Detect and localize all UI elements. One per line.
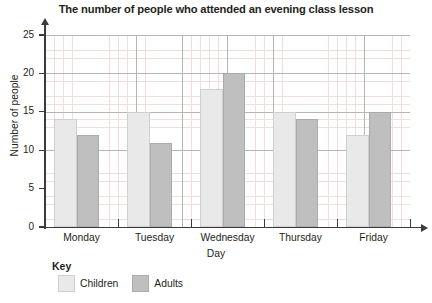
x-axis-separator-tick: [264, 219, 265, 228]
legend-label-adults: Adults: [154, 278, 183, 289]
legend-item-children: Children: [58, 275, 118, 292]
y-axis-tick-label: 0: [12, 221, 34, 232]
x-axis-label-monday: Monday: [45, 232, 118, 243]
y-axis-tick: [39, 226, 45, 227]
legend-items: ChildrenAdults: [52, 275, 183, 292]
x-axis-arrow-icon: [421, 224, 428, 232]
bar-friday-children: [346, 135, 369, 227]
legend: Key ChildrenAdults: [52, 260, 183, 292]
bar-tuesday-adults: [150, 143, 173, 227]
x-axis-label-tuesday: Tuesday: [118, 232, 191, 243]
bar-monday-adults: [77, 135, 100, 227]
bar-thursday-adults: [296, 119, 319, 227]
bar-wednesday-children: [200, 89, 223, 227]
y-axis-line: [44, 24, 46, 229]
plot-area: [45, 35, 410, 227]
x-axis-label-thursday: Thursday: [264, 232, 337, 243]
y-axis-tick: [39, 34, 45, 35]
y-axis-title: Number of people: [9, 56, 20, 176]
x-axis-separator-tick: [45, 219, 46, 228]
y-axis-tick: [39, 73, 45, 74]
legend-label-children: Children: [80, 278, 118, 289]
x-axis-separator-tick: [410, 219, 411, 228]
legend-title: Key: [52, 260, 183, 272]
bar-friday-adults: [369, 112, 392, 227]
y-axis-tick-label: 25: [12, 29, 34, 40]
bar-wednesday-adults: [223, 73, 246, 227]
x-axis-line: [44, 227, 422, 229]
y-axis-tick: [39, 188, 45, 189]
legend-item-adults: Adults: [132, 275, 183, 292]
x-axis-separator-tick: [337, 219, 338, 228]
legend-swatch-children: [58, 275, 75, 292]
bar-monday-children: [54, 119, 77, 227]
x-axis-separator-tick: [118, 219, 119, 228]
y-axis-tick: [39, 111, 45, 112]
bar-thursday-children: [273, 112, 296, 227]
x-axis-label-wednesday: Wednesday: [191, 232, 264, 243]
y-axis-tick: [39, 150, 45, 151]
x-axis-separator-tick: [191, 219, 192, 228]
x-axis-title: Day: [0, 248, 432, 259]
x-axis-label-friday: Friday: [337, 232, 410, 243]
y-axis-arrow-icon: [41, 18, 49, 25]
chart-title: The number of people who attended an eve…: [0, 3, 432, 15]
y-axis-tick-label: 5: [12, 182, 34, 193]
legend-swatch-adults: [132, 275, 149, 292]
bar-tuesday-children: [127, 112, 150, 227]
